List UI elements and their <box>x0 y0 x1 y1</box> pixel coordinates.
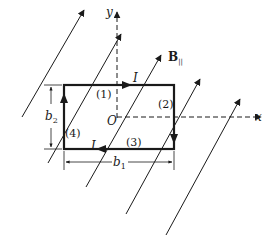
origin-label: O <box>107 114 117 128</box>
segment-2-label: (2) <box>158 98 174 111</box>
field-line <box>150 70 214 185</box>
current-label-bottom: I <box>90 139 96 153</box>
field-label: B|| <box>168 50 183 66</box>
segment-4-arrow-icon <box>60 93 68 103</box>
field-line <box>22 10 84 117</box>
segment-1-label: (1) <box>96 88 112 101</box>
width-label: b1 <box>113 155 126 171</box>
current-loop-diagram: y x O (1) (2) (3) (4) I I b2 <box>0 0 267 238</box>
segment-3-arrow-icon <box>96 145 106 153</box>
x-axis-label: x <box>255 110 262 124</box>
field-line <box>166 99 240 235</box>
segment-1-arrow-icon <box>122 81 132 89</box>
height-label: b2 <box>45 109 58 125</box>
segment-3-label: (3) <box>126 136 142 149</box>
y-axis-label: y <box>105 5 113 19</box>
current-label-top: I <box>132 71 138 85</box>
